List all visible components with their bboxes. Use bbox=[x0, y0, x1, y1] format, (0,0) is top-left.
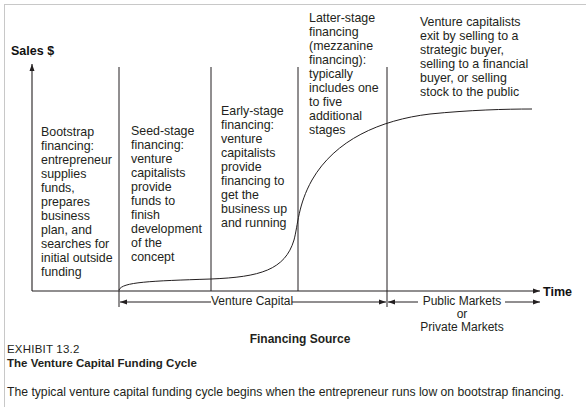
stage-early-text: Early-stagefinancing:venturecapitalistsp… bbox=[221, 104, 287, 230]
financing-source-heading: Financing Source bbox=[200, 333, 400, 346]
private-markets-label: Private Markets bbox=[412, 321, 512, 334]
x-axis-label: Time bbox=[543, 285, 572, 299]
exhibit-description: The typical venture capital funding cycl… bbox=[7, 385, 564, 399]
venture-capital-label: Venture Capital bbox=[211, 295, 293, 308]
stage-seed-text: Seed-stagefinancing:venturecapitalistspr… bbox=[131, 124, 202, 264]
y-axis-label: Sales $ bbox=[11, 44, 54, 58]
exhibit-title: The Venture Capital Funding Cycle bbox=[7, 357, 197, 369]
stage-bootstrap-text: Bootstrapfinancing:entrepreneursuppliesf… bbox=[41, 125, 113, 279]
stage-exit-text: Venture capitalistsexit by selling to as… bbox=[420, 15, 528, 99]
stage-latter-text: Latter-stagefinancing(mezzaninefinancing… bbox=[309, 11, 379, 137]
exhibit-number: EXHIBIT 13.2 bbox=[7, 343, 80, 355]
